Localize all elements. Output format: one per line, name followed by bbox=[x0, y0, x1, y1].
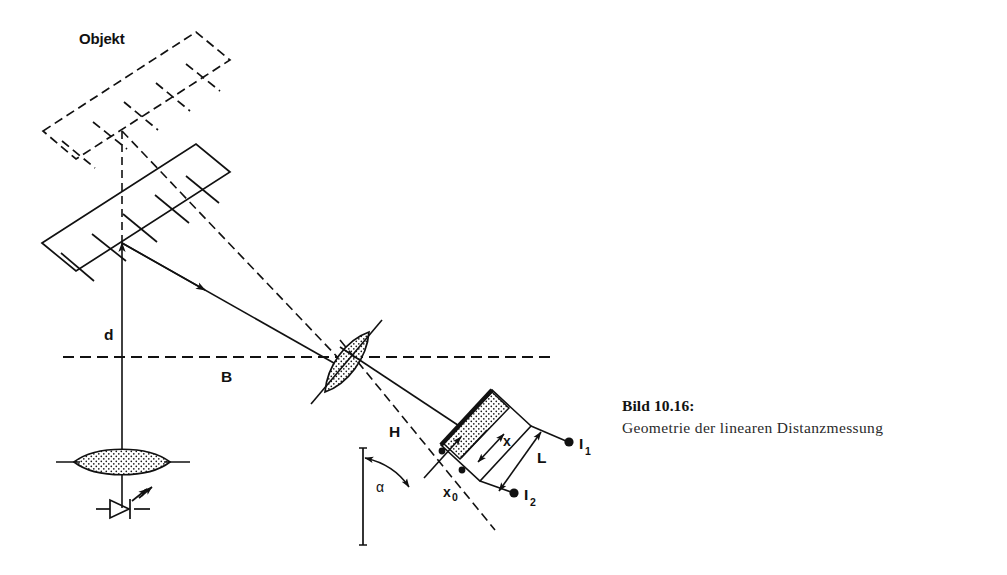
label-current-i1-main: I bbox=[579, 435, 583, 452]
caption-text: Geometrie der linearen Distanzmessung bbox=[622, 418, 1002, 438]
label-current-i2-main: I bbox=[524, 486, 528, 503]
label-current-i2-sub: 2 bbox=[530, 496, 536, 508]
label-current-i1-sub: 1 bbox=[585, 445, 591, 457]
figure-caption: Bild 10.16: Geometrie der linearen Dista… bbox=[622, 396, 1002, 438]
label-image-distance-H: H bbox=[389, 423, 400, 440]
distance-measurement-diagram: Objekt d B H α x x 0 L I 1 I 2 bbox=[0, 0, 1007, 575]
label-objekt: Objekt bbox=[79, 30, 125, 47]
label-offset-x0-sub: 0 bbox=[452, 491, 458, 503]
label-offset-x0-main: x bbox=[443, 484, 451, 500]
caption-title: Bild 10.16: bbox=[622, 396, 1002, 416]
terminal-i1-dot bbox=[564, 437, 573, 446]
terminal-i2-dot bbox=[509, 488, 518, 497]
label-position-x: x bbox=[503, 433, 511, 449]
label-angle-alpha: α bbox=[376, 479, 384, 495]
figure-container: Objekt d B H α x x 0 L I 1 I 2 Bild 10.1… bbox=[0, 0, 1007, 575]
label-detector-length-L: L bbox=[537, 449, 546, 466]
label-distance-d: d bbox=[104, 326, 113, 343]
label-baseline-B: B bbox=[221, 368, 232, 385]
